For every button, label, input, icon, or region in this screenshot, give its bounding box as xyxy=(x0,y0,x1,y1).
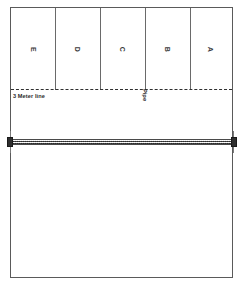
zone-cell-e: E xyxy=(11,8,55,90)
zone-label-b: B xyxy=(164,46,171,51)
net-post-right xyxy=(231,137,237,147)
attack-line-label: 3 Meter line xyxy=(13,93,45,99)
court-diagram: E D C B A 3 Meter line Pipe xyxy=(0,0,245,286)
zone-label-a: A xyxy=(207,46,214,51)
zone-label-d: D xyxy=(74,46,81,51)
zone-divider-3 xyxy=(145,8,146,90)
net-band xyxy=(11,139,233,145)
attack-line xyxy=(11,89,232,90)
zone-divider-4 xyxy=(190,8,191,90)
zone-cell-a: A xyxy=(190,8,232,90)
zone-label-c: C xyxy=(119,46,126,51)
zone-divider-1 xyxy=(55,8,56,90)
pipe-annotation-label: Pipe xyxy=(142,89,148,101)
zone-divider-2 xyxy=(100,8,101,90)
zone-cell-b: B xyxy=(145,8,190,90)
net-post-left xyxy=(7,137,13,147)
zone-cell-c: C xyxy=(100,8,145,90)
zone-label-e: E xyxy=(30,47,37,52)
pipe-annotation: Pipe xyxy=(134,92,156,114)
zone-cell-d: D xyxy=(55,8,100,90)
